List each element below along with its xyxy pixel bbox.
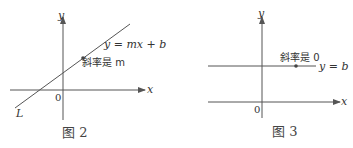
- fig2-origin-label: 0: [55, 92, 61, 103]
- fig2-x-label: x: [147, 83, 154, 96]
- fig3-point: [294, 64, 298, 68]
- fig2-line-name: L: [15, 107, 23, 120]
- fig3-x-label: x: [341, 95, 348, 108]
- fig2-slope-label: 斜率是 m: [82, 56, 125, 68]
- fig2-caption: 图 2: [62, 125, 87, 140]
- figure-2: y x 0 y = mx + b 斜率是 m L 图 2: [10, 9, 166, 140]
- fig3-origin-label: 0: [254, 104, 260, 115]
- fig2-equation: y = mx + b: [103, 38, 166, 51]
- fig3-caption: 图 3: [272, 124, 297, 139]
- fig3-slope-label: 斜率是 0: [280, 51, 320, 63]
- fig3-equation: y = b: [318, 60, 348, 73]
- fig3-y-label: y: [257, 7, 265, 20]
- figure-3: y x 0 斜率是 0 y = b 图 3: [208, 7, 348, 139]
- fig2-y-label: y: [57, 9, 65, 22]
- diagram-canvas: y x 0 y = mx + b 斜率是 m L 图 2 y x 0 斜率是 0…: [0, 0, 353, 148]
